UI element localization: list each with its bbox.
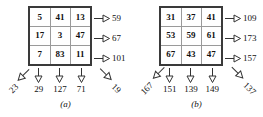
arrow-right-icon	[94, 34, 110, 43]
column-sum-2: 71	[71, 68, 92, 94]
grid-cell: 83	[50, 45, 70, 64]
grid-cell: 37	[181, 8, 201, 27]
magic-square-sums-figure: 5 41 13 17 3 47 7 83 11	[0, 0, 263, 117]
grid-cell: 43	[181, 45, 201, 64]
grid-cell: 47	[201, 45, 221, 64]
arrow-down-icon	[186, 68, 195, 83]
grid-cell: 41	[201, 8, 221, 27]
column-sum-value: 29	[28, 84, 49, 94]
arrow-right-icon	[225, 14, 241, 23]
arrow-down-icon	[55, 68, 64, 83]
table-row: 31 37 41	[161, 8, 221, 27]
arrow-down-icon	[77, 68, 86, 83]
grid-cell: 61	[201, 27, 221, 46]
number-grid-a: 5 41 13 17 3 47 7 83 11	[28, 6, 92, 66]
arrow-right-icon	[94, 54, 110, 63]
grid-cell: 53	[161, 27, 181, 46]
panel-a: 5 41 13 17 3 47 7 83 11	[0, 0, 131, 117]
row-sum-2: 101	[94, 48, 126, 68]
panel-caption: (b)	[131, 99, 262, 109]
grid-cell: 59	[181, 27, 201, 46]
column-sum-value: 139	[180, 84, 201, 94]
row-sum-0: 59	[94, 8, 121, 28]
arrow-down-icon	[208, 68, 217, 83]
grid-cell: 47	[70, 27, 90, 46]
row-sum-value: 109	[243, 13, 257, 23]
row-sum-2: 157	[225, 48, 257, 68]
row-sum-value: 173	[243, 33, 257, 43]
column-sum-value: 127	[49, 84, 70, 94]
column-sum-value: 149	[202, 84, 223, 94]
grid-cell: 17	[30, 27, 50, 46]
diagonal-sum-right: 137	[225, 64, 259, 98]
column-sum-1: 127	[49, 68, 70, 94]
number-grid-b: 31 37 41 53 59 61 67 43 47	[159, 6, 223, 66]
grid-cell: 67	[161, 45, 181, 64]
row-sum-value: 157	[243, 53, 257, 63]
panel-caption: (a)	[0, 99, 131, 109]
panel-b: 31 37 41 53 59 61 67 43 47	[131, 0, 262, 117]
column-sum-2: 149	[202, 68, 223, 94]
arrow-right-icon	[94, 14, 110, 23]
grid-cell: 31	[161, 8, 181, 27]
column-sum-1: 139	[180, 68, 201, 94]
grid-cell: 3	[50, 27, 70, 46]
grid-cell: 7	[30, 45, 50, 64]
column-sum-value: 71	[71, 84, 92, 94]
grid-cell: 13	[70, 8, 90, 27]
arrow-right-icon	[225, 54, 241, 63]
row-sum-1: 173	[225, 28, 257, 48]
table-row: 5 41 13	[30, 8, 90, 27]
row-sum-value: 67	[112, 33, 121, 43]
row-sum-1: 67	[94, 28, 121, 48]
table-row: 53 59 61	[161, 27, 221, 46]
grid-cell: 5	[30, 8, 50, 27]
grid-cell: 41	[50, 8, 70, 27]
table-row: 67 43 47	[161, 45, 221, 64]
row-sum-value: 59	[112, 13, 121, 23]
arrow-right-icon	[225, 34, 241, 43]
table-row: 7 83 11	[30, 45, 90, 64]
column-sums-a: 29 127 71	[28, 68, 92, 100]
table-row: 17 3 47	[30, 27, 90, 46]
grid-cell: 11	[70, 45, 90, 64]
row-sum-value: 101	[112, 53, 126, 63]
row-sum-0: 109	[225, 8, 257, 28]
diagonal-sum-right: 19	[93, 65, 124, 96]
column-sum-value: 151	[159, 84, 180, 94]
